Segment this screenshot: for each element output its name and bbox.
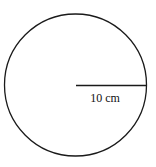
circle-diagram: 10 cm — [0, 0, 156, 167]
radius-label: 10 cm — [90, 91, 120, 105]
